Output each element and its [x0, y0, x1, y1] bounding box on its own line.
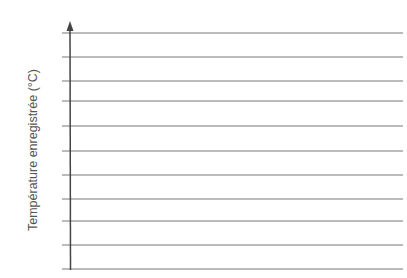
empty-chart-grid — [0, 0, 407, 278]
y-axis-arrow-icon — [67, 21, 74, 31]
gridlines — [62, 33, 403, 269]
y-axis — [70, 30, 71, 270]
